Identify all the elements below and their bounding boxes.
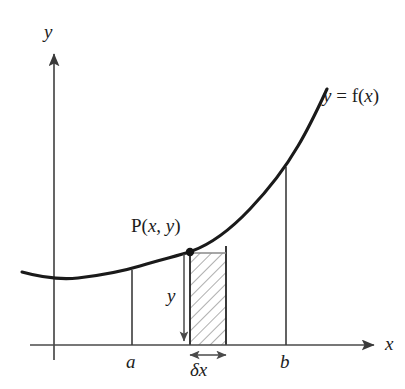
- curve-equation-label: y = f(x): [323, 86, 379, 105]
- point-p-label: P(x, y): [131, 216, 181, 235]
- strip-hatched-region: [190, 253, 226, 345]
- curve-equation-equals: =: [331, 85, 351, 106]
- curve-equation-argument: x: [364, 85, 372, 106]
- figure-area-under-curve: y x y = f(x) P(x, y) y a b δx: [0, 0, 405, 389]
- strip-width-delta-symbol: δ: [190, 359, 199, 380]
- x-tick-label-b: b: [280, 352, 290, 371]
- point-p-marker: [186, 248, 194, 256]
- point-p-close-paren: ): [174, 215, 180, 236]
- point-p-name: P: [131, 215, 142, 236]
- strip-width-variable: x: [199, 359, 207, 380]
- y-axis-label: y: [44, 22, 52, 41]
- strip-width-label: δx: [190, 360, 207, 379]
- strip-height-label: y: [167, 286, 175, 305]
- function-curve: [22, 89, 327, 279]
- x-axis-label: x: [385, 334, 393, 353]
- point-p-comma: ,: [156, 215, 166, 236]
- diagram-canvas: [0, 0, 405, 389]
- x-tick-label-a: a: [126, 352, 136, 371]
- curve-equation-close-paren: ): [373, 85, 379, 106]
